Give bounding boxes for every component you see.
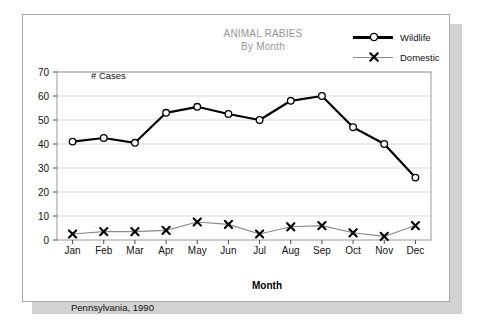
- data-point-circle-marker: [69, 138, 76, 145]
- screenshot-root: ANIMAL RABIES By Month Wildlife: [0, 0, 477, 328]
- data-point-circle-marker: [287, 98, 294, 105]
- x-tick-label: Nov: [375, 245, 393, 256]
- x-tick-label: Jul: [253, 245, 266, 256]
- data-point-circle-marker: [412, 174, 419, 181]
- data-point-circle-marker: [381, 141, 388, 148]
- y-tick-label: 50: [38, 115, 50, 126]
- data-point-circle-marker: [256, 117, 263, 124]
- y-tick-label: 70: [38, 67, 50, 78]
- y-tick-label: 10: [38, 211, 50, 222]
- series-line-wildlife: [73, 96, 416, 178]
- y-tick-label: 20: [38, 187, 50, 198]
- y-tick-label: 30: [38, 163, 50, 174]
- x-tick-label: Feb: [95, 245, 113, 256]
- y-tick-label: 40: [38, 139, 50, 150]
- series-line-domestic: [73, 222, 416, 236]
- line-chart-plot: 010203040506070JanFebMarAprMayJunJulAugS…: [0, 0, 477, 328]
- x-tick-label: May: [188, 245, 207, 256]
- x-tick-label: Dec: [407, 245, 425, 256]
- plot-frame: [57, 72, 431, 240]
- data-point-circle-marker: [225, 111, 232, 118]
- data-point-circle-marker: [350, 124, 357, 131]
- plot-area-wrapper: 010203040506070JanFebMarAprMayJunJulAugS…: [0, 0, 477, 328]
- x-tick-label: Mar: [126, 245, 144, 256]
- x-tick-label: Sep: [313, 245, 331, 256]
- data-point-circle-marker: [163, 110, 170, 117]
- data-point-x-marker: [412, 222, 419, 229]
- data-point-x-marker: [256, 230, 263, 237]
- x-tick-label: Aug: [282, 245, 300, 256]
- data-point-circle-marker: [132, 140, 139, 147]
- y-tick-label: 60: [38, 91, 50, 102]
- x-tick-label: Jun: [220, 245, 236, 256]
- x-tick-label: Apr: [158, 245, 174, 256]
- data-point-circle-marker: [319, 93, 326, 100]
- data-point-circle-marker: [100, 135, 107, 142]
- x-tick-label: Jan: [65, 245, 81, 256]
- data-point-circle-marker: [194, 104, 201, 111]
- x-tick-label: Oct: [345, 245, 361, 256]
- y-tick-label: 0: [43, 235, 49, 246]
